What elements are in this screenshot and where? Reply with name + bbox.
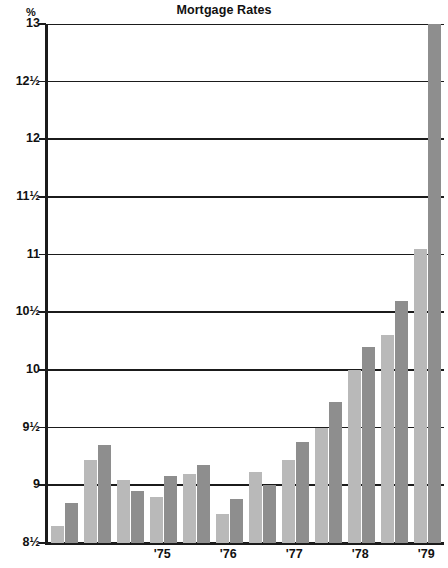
bar — [65, 503, 78, 543]
plot-area — [48, 24, 444, 543]
bar — [249, 472, 262, 544]
bar — [183, 474, 196, 543]
y-axis-tick — [39, 81, 46, 83]
gridline — [48, 254, 444, 256]
bar — [150, 497, 163, 543]
y-axis-label: 9 — [0, 477, 40, 491]
bar — [117, 480, 130, 543]
bar — [230, 499, 243, 543]
y-axis-tick — [39, 484, 46, 486]
bar — [131, 491, 144, 543]
bar — [197, 465, 210, 543]
x-axis-label: '78 — [352, 547, 369, 561]
bar — [282, 460, 295, 543]
bar — [296, 442, 309, 543]
y-axis-label: 12½ — [0, 74, 40, 88]
y-axis-tick — [39, 196, 46, 198]
x-axis-label: '75 — [154, 547, 171, 561]
y-axis-tick — [39, 23, 46, 25]
bar — [164, 476, 177, 543]
y-axis-tick — [39, 427, 46, 429]
y-axis-tick — [39, 311, 46, 313]
y-axis-label: 8½ — [0, 535, 40, 549]
bar — [263, 485, 276, 543]
y-axis-label: 10½ — [0, 304, 40, 318]
bar — [381, 335, 394, 543]
bar — [51, 526, 64, 543]
x-axis-label: '77 — [286, 547, 303, 561]
bar — [329, 402, 342, 543]
y-axis-label: 13 — [0, 16, 40, 30]
chart-title: Mortgage Rates — [0, 3, 448, 17]
gridline — [48, 196, 444, 198]
gridline — [48, 311, 444, 313]
bar — [98, 445, 111, 543]
bar — [428, 24, 441, 543]
gridline — [48, 24, 444, 25]
x-axis-label: '79 — [418, 547, 435, 561]
bar — [362, 347, 375, 543]
bar — [84, 460, 97, 543]
y-axis-label: 11½ — [0, 189, 40, 203]
y-axis-label: 10 — [0, 362, 40, 376]
bar — [315, 428, 328, 543]
y-axis-tick — [39, 542, 46, 544]
y-axis-tick — [39, 254, 46, 256]
y-axis-label: 12 — [0, 131, 40, 145]
bar — [348, 370, 361, 543]
bar — [216, 514, 229, 543]
bar — [414, 249, 427, 543]
gridline — [48, 81, 444, 83]
mortgage-rates-chart: Mortgage Rates % 1312½1211½1110½109½98½ … — [0, 0, 448, 568]
bar — [395, 301, 408, 543]
y-axis-label: 9½ — [0, 420, 40, 434]
y-axis-tick — [39, 369, 46, 371]
x-axis-label: '76 — [220, 547, 237, 561]
y-axis-label: 11 — [0, 247, 40, 261]
gridline — [48, 138, 444, 140]
y-axis-tick — [39, 138, 46, 140]
